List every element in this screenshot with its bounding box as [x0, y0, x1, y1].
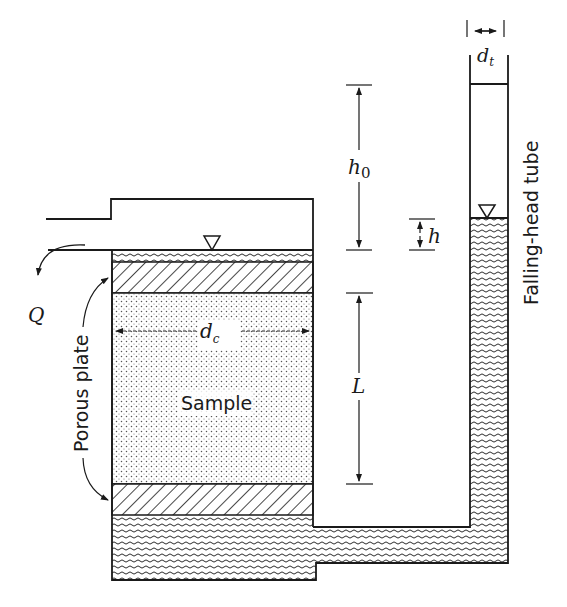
top-water-layer: [112, 250, 313, 262]
water-level-marker-tube: [479, 205, 495, 218]
sample-length-label: L: [351, 374, 365, 398]
initial-head-label: h0: [348, 155, 370, 182]
falling-head-permeameter-diagram: Q dt h0 h L dc: [0, 0, 567, 607]
porous-plate-arrow-bottom: [83, 458, 108, 500]
falling-head-tube-label: Falling-head tube: [520, 141, 542, 305]
top-porous-plate: [112, 262, 313, 293]
head-drop-label: h: [428, 224, 441, 248]
flow-label: Q: [28, 303, 44, 327]
porous-plate-label: Porous plate: [70, 334, 92, 452]
bottom-porous-plate: [112, 484, 313, 515]
sample-label: Sample: [181, 392, 252, 414]
porous-plate-arrow-top: [83, 278, 108, 327]
tube-diameter-dimension: [467, 20, 504, 37]
water-level-marker-sample: [204, 236, 220, 250]
tube-diameter-label: dt: [477, 44, 494, 69]
